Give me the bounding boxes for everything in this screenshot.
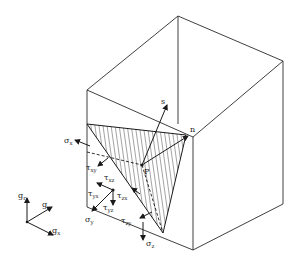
label-tau-zx: τzx bbox=[117, 191, 128, 201]
label-axis-x: gx bbox=[52, 226, 61, 236]
stress-cube-diagram: n s P σx σy σz τxy τxz τyx τyz τzx τzy g… bbox=[0, 0, 298, 264]
label-n: n bbox=[190, 125, 195, 134]
label-p: P bbox=[144, 167, 150, 176]
label-sigma-y: σy bbox=[85, 215, 94, 226]
label-tau-xz: τxz bbox=[104, 173, 115, 183]
label-axis-z: gr bbox=[18, 191, 26, 201]
cut-plane-triangle bbox=[87, 124, 186, 233]
label-tau-xy: τxy bbox=[86, 163, 98, 174]
label-sigma-z: σz bbox=[146, 239, 154, 249]
label-tau-yz: τyz bbox=[103, 203, 114, 214]
label-s: s bbox=[161, 97, 165, 106]
label-sigma-x: σx bbox=[64, 136, 73, 146]
label-axis-y: gy bbox=[42, 200, 51, 211]
label-tau-zy: τzy bbox=[121, 216, 132, 227]
label-tau-yx: τyx bbox=[88, 189, 100, 200]
